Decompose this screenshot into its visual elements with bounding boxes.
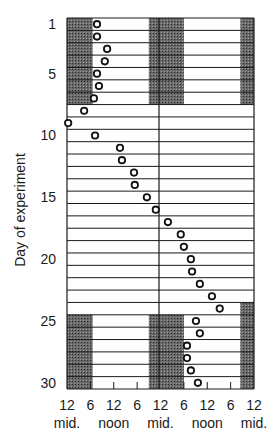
onset-marker bbox=[188, 367, 194, 373]
x-tick-sublabel: mid. bbox=[241, 415, 267, 431]
dark-period-block bbox=[149, 18, 184, 105]
onset-marker bbox=[104, 46, 110, 52]
y-tick-label: 5 bbox=[48, 66, 56, 82]
y-axis-ticks: 151015202530 bbox=[40, 16, 56, 391]
dark-period-block bbox=[67, 18, 93, 105]
x-tick-label: 12 bbox=[106, 397, 122, 413]
onset-marker bbox=[117, 145, 123, 151]
onset-marker bbox=[144, 194, 150, 200]
onset-marker bbox=[131, 169, 137, 175]
onset-marker bbox=[193, 318, 199, 324]
onset-marker bbox=[94, 33, 100, 39]
onset-marker bbox=[165, 219, 171, 225]
x-tick-label: 6 bbox=[133, 397, 141, 413]
y-tick-label: 30 bbox=[40, 375, 56, 391]
onset-marker bbox=[153, 206, 159, 212]
dark-period-block bbox=[240, 18, 254, 105]
onset-marker bbox=[197, 281, 203, 287]
actogram-chart: 151015202530 12612612612612mid.noonmid.n… bbox=[0, 0, 278, 439]
x-tick-label: 6 bbox=[86, 397, 94, 413]
onset-marker bbox=[65, 120, 71, 126]
onset-marker bbox=[189, 268, 195, 274]
onset-marker bbox=[102, 58, 108, 64]
onset-marker bbox=[184, 355, 190, 361]
x-tick-label: 12 bbox=[153, 397, 169, 413]
onset-marker bbox=[178, 231, 184, 237]
onset-marker bbox=[184, 343, 190, 349]
y-tick-label: 20 bbox=[40, 251, 56, 267]
onset-marker bbox=[197, 330, 203, 336]
onset-marker bbox=[217, 305, 223, 311]
y-tick-label: 1 bbox=[48, 16, 56, 32]
onset-marker bbox=[94, 70, 100, 76]
onset-marker bbox=[96, 83, 102, 89]
y-tick-label: 15 bbox=[40, 189, 56, 205]
x-tick-sublabel: mid. bbox=[147, 415, 173, 431]
onset-marker bbox=[119, 157, 125, 163]
onset-marker bbox=[92, 132, 98, 138]
onset-marker bbox=[188, 256, 194, 262]
x-tick-label: 6 bbox=[227, 397, 235, 413]
x-tick-label: 6 bbox=[180, 397, 188, 413]
onset-marker bbox=[91, 95, 97, 101]
x-tick-sublabel: noon bbox=[192, 415, 223, 431]
onset-marker bbox=[94, 21, 100, 27]
onset-marker bbox=[132, 182, 138, 188]
onset-marker bbox=[209, 293, 215, 299]
x-tick-sublabel: mid. bbox=[54, 415, 80, 431]
x-tick-label: 12 bbox=[59, 397, 75, 413]
onset-marker bbox=[81, 108, 87, 114]
y-tick-label: 10 bbox=[40, 127, 56, 143]
x-tick-sublabel: noon bbox=[98, 415, 129, 431]
onset-marker bbox=[195, 380, 201, 386]
onset-marker bbox=[181, 244, 187, 250]
x-tick-label: 12 bbox=[199, 397, 215, 413]
y-axis-label: Day of experiment bbox=[12, 140, 32, 280]
y-tick-label: 25 bbox=[40, 313, 56, 329]
dark-period-block bbox=[240, 302, 254, 314]
x-tick-label: 12 bbox=[246, 397, 262, 413]
